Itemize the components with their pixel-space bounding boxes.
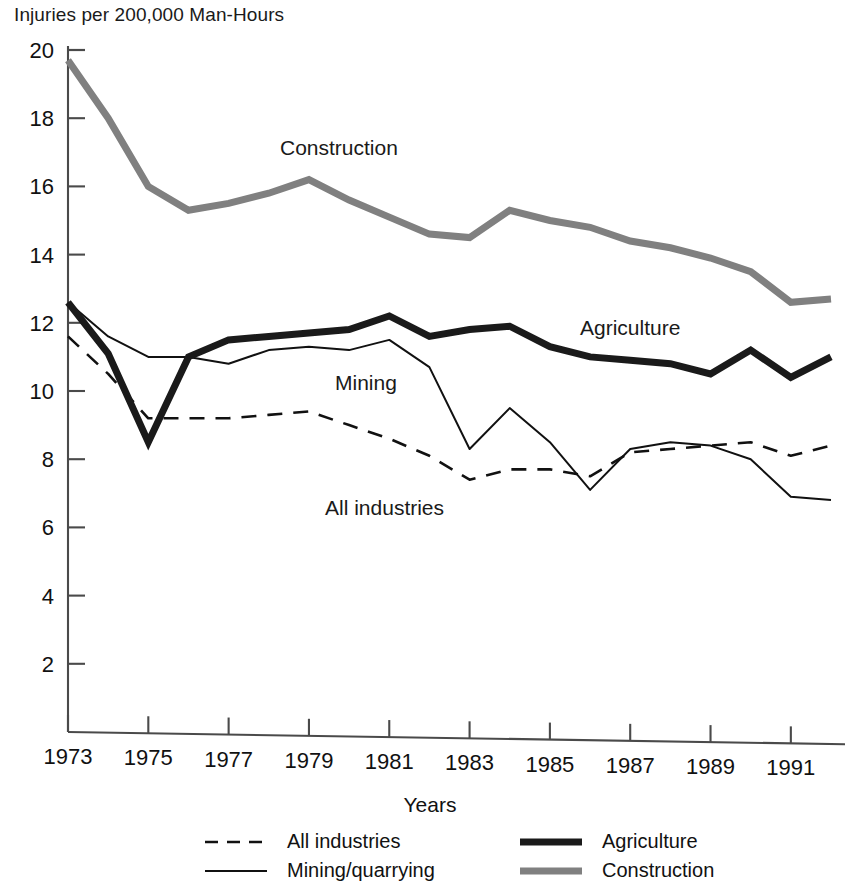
series-label-agriculture: Agriculture xyxy=(580,316,680,339)
y-tick-label: 8 xyxy=(42,447,54,472)
chart-canvas: 2468101214161820 19731975197719791981198… xyxy=(0,0,847,887)
legend-label-mining-quarrying: Mining/quarrying xyxy=(287,859,435,881)
y-axis-ticks: 2468101214161820 xyxy=(30,38,85,677)
y-tick-label: 18 xyxy=(30,106,54,131)
y-tick-label: 16 xyxy=(30,174,54,199)
y-tick-label: 20 xyxy=(30,38,54,63)
legend-label-all-industries: All industries xyxy=(287,830,400,852)
x-tick-label: 1981 xyxy=(365,749,414,774)
x-tick-label: 1989 xyxy=(686,754,735,779)
x-tick-label: 1977 xyxy=(204,747,253,772)
y-tick-label: 10 xyxy=(30,379,54,404)
x-axis-title: Years xyxy=(404,793,457,816)
x-tick-label: 1983 xyxy=(445,750,494,775)
legend-label-construction: Construction xyxy=(602,859,714,881)
chart-legend: All industriesMining/quarryingAgricultur… xyxy=(205,830,714,881)
x-axis-ticks: 1973197519771979198119831985198719891991 xyxy=(44,715,816,780)
x-tick-label: 1985 xyxy=(525,752,574,777)
chart-figure: Injuries per 200,000 Man-Hours 246810121… xyxy=(0,0,847,887)
y-tick-label: 2 xyxy=(42,652,54,677)
x-tick-label: 1975 xyxy=(124,745,173,770)
y-tick-label: 12 xyxy=(30,311,54,336)
x-tick-label: 1979 xyxy=(284,748,333,773)
y-tick-label: 14 xyxy=(30,243,54,268)
series-label-mining: Mining xyxy=(335,371,397,394)
y-tick-label: 6 xyxy=(42,515,54,540)
x-tick-label: 1973 xyxy=(44,744,93,769)
legend-label-agriculture: Agriculture xyxy=(602,830,698,852)
series-line-construction xyxy=(68,60,831,302)
y-tick-label: 4 xyxy=(42,584,54,609)
series-label-all-industries: All industries xyxy=(325,496,444,519)
x-tick-label: 1987 xyxy=(606,753,655,778)
series-label-construction: Construction xyxy=(280,136,398,159)
x-tick-label: 1991 xyxy=(766,755,815,780)
x-axis-line xyxy=(68,732,845,744)
series-layer xyxy=(68,60,831,500)
series-line-agriculture xyxy=(68,302,831,442)
